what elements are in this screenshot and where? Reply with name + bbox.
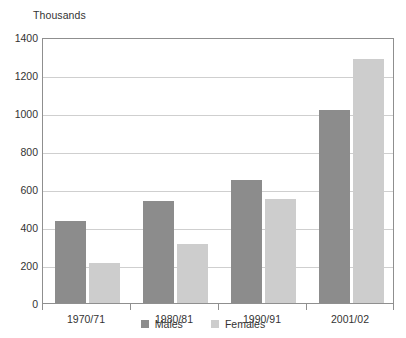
- bar-males-2001-02: [319, 110, 350, 303]
- legend-label: Males: [155, 318, 183, 330]
- legend-entry-males[interactable]: Males: [141, 318, 183, 330]
- bar-males-1980-81: [143, 201, 174, 303]
- y-tick-label: 0: [32, 298, 38, 310]
- y-tick-label: 200: [20, 260, 38, 272]
- y-tick-label: 1400: [15, 32, 38, 44]
- y-tick-label: 800: [20, 146, 38, 158]
- x-tick-mark: [130, 304, 131, 310]
- y-tick-label: 400: [20, 222, 38, 234]
- y-axis: 0200400600800100012001400: [0, 38, 38, 304]
- y-tick-label: 1000: [15, 108, 38, 120]
- bar-females-1990-91: [265, 199, 296, 303]
- bar-chart-figure: Thousands 0200400600800100012001400 1970…: [0, 0, 406, 338]
- bar-females-2001-02: [353, 59, 384, 303]
- legend-swatch-icon: [141, 320, 149, 328]
- bar-males-1990-91: [231, 180, 262, 304]
- x-tick-mark: [218, 304, 219, 310]
- legend-entry-females[interactable]: Females: [211, 318, 265, 330]
- chart-legend: MalesFemales: [0, 318, 406, 330]
- legend-swatch-icon: [211, 320, 219, 328]
- x-tick-mark: [306, 304, 307, 310]
- plot-area: [42, 38, 394, 304]
- bar-males-1970-71: [55, 221, 86, 303]
- legend-label: Females: [225, 318, 265, 330]
- bar-females-1980-81: [177, 244, 208, 303]
- chart-unit-caption: Thousands: [33, 9, 86, 21]
- y-tick-label: 600: [20, 184, 38, 196]
- x-tick-mark: [42, 304, 43, 310]
- bar-females-1970-71: [89, 263, 120, 303]
- x-tick-mark: [393, 304, 394, 310]
- y-tick-label: 1200: [15, 70, 38, 82]
- gridline: [43, 77, 393, 78]
